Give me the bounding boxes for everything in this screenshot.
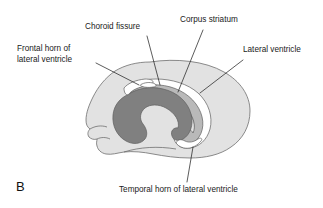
- label-corpus-striatum: Corpus striatum: [180, 15, 238, 24]
- brain-ventricle-diagram: Choroid fissure Corpus striatum Frontal …: [0, 0, 323, 208]
- label-frontal-horn-of-lateral-ventricle: Frontal horn of lateral ventricle: [17, 44, 73, 64]
- panel-letter-b: B: [16, 179, 25, 194]
- label-temporal-horn-of-lateral-ventricle: Temporal horn of lateral ventricle: [119, 185, 238, 194]
- label-lateral-ventricle: Lateral ventricle: [243, 45, 301, 54]
- label-frontal-horn-line-1: Frontal horn of: [17, 44, 71, 53]
- anatomy-figure-panel-b: Choroid fissure Corpus striatum Frontal …: [0, 0, 323, 208]
- label-frontal-horn-line-2: lateral ventricle: [17, 55, 73, 64]
- label-choroid-fissure: Choroid fissure: [85, 22, 141, 31]
